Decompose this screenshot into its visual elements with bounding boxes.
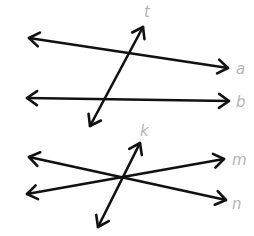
line-k: [96, 143, 142, 227]
line-t: [89, 27, 145, 126]
label-k: k: [140, 122, 150, 140]
line-b-segment: [27, 98, 229, 101]
label-a: a: [236, 60, 245, 78]
line-t-segment: [90, 27, 143, 126]
line-b: [27, 91, 229, 108]
line-k-segment: [98, 143, 140, 227]
label-n: n: [232, 195, 242, 213]
line-n: [29, 152, 226, 204]
label-m: m: [232, 151, 247, 169]
figure-lines-m-n-k: m n k: [27, 122, 247, 227]
figure-lines-a-b-t: a b t: [27, 3, 246, 126]
label-b: b: [236, 93, 246, 111]
label-t: t: [144, 3, 151, 21]
geometry-diagram: a b t m n k: [0, 0, 254, 236]
